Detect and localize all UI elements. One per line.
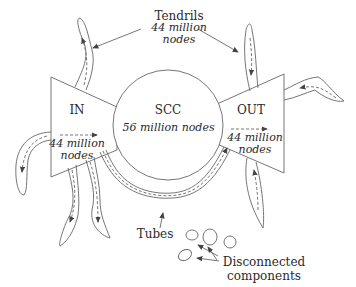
disconnected-line2: components <box>218 270 310 283</box>
scc-title: SCC <box>138 104 198 117</box>
out-title: OUT <box>231 104 271 117</box>
disconnected-blob-2 <box>203 229 217 245</box>
tendril-top-left <box>75 18 93 90</box>
out-shape <box>217 74 284 173</box>
in-title: IN <box>62 104 92 117</box>
tendril-top-right <box>245 24 258 91</box>
tendril-bottom-2 <box>86 157 110 238</box>
disconnected-blob-3 <box>224 236 236 248</box>
tendrils-count-line2: nodes <box>140 34 218 46</box>
in-count-line2: nodes <box>48 150 106 162</box>
disconnected-blob-1 <box>186 230 198 240</box>
bow-tie-diagram: Tendrils 44 million nodes IN 44 million … <box>0 0 356 287</box>
out-count-line2: nodes <box>226 144 284 156</box>
disconnected-blob-4 <box>176 247 193 263</box>
tubes-label: Tubes <box>135 228 175 241</box>
disconnected-line1: Disconnected <box>218 256 310 269</box>
tendril-left <box>16 132 51 195</box>
tendril-bottom-1 <box>60 165 79 246</box>
tendril-bottom-right <box>246 158 264 228</box>
scc-count: 56 million nodes <box>121 122 216 134</box>
